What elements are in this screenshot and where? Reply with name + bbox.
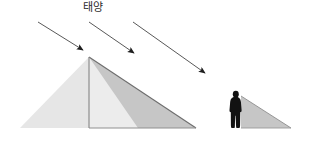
sun-shadow-diagram: 태양 xyxy=(0,0,311,144)
diagram-canvas xyxy=(0,0,311,144)
person-head-icon xyxy=(233,91,239,98)
sun-ray-1-icon xyxy=(38,22,83,50)
person-body-icon xyxy=(229,97,241,129)
pyramid-left-face xyxy=(20,57,89,128)
sun-ray-3-icon xyxy=(133,22,205,73)
person-silhouette xyxy=(229,91,241,128)
sun-ray-2-icon xyxy=(89,22,134,53)
